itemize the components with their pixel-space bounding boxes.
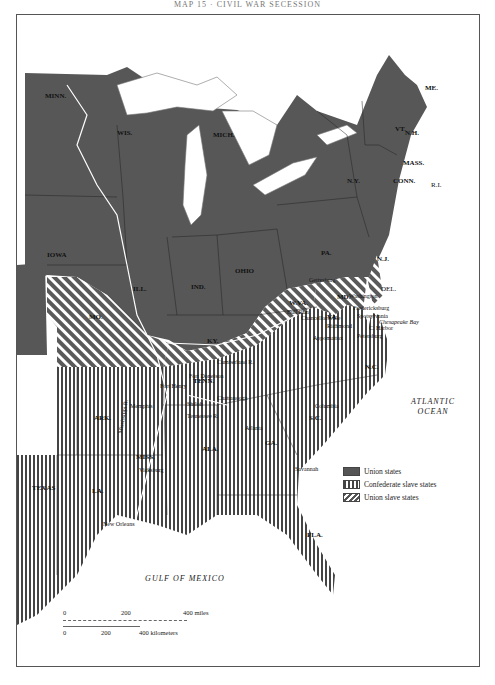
state-label-ark: ARK.: [94, 414, 111, 422]
place-appomattox: Appomattox: [313, 335, 343, 342]
place-gettysburg: Gettysburg: [309, 277, 336, 284]
scale-miles-200: 200: [121, 609, 131, 616]
union-slave-swatch-icon: [343, 493, 360, 502]
place-petersburg: Petersburg: [357, 333, 383, 340]
place-harbor: C. Harbor: [369, 325, 393, 332]
legend-label: Union states: [364, 467, 401, 476]
state-label-ill: ILL.: [133, 285, 147, 293]
ocean-label-atlantic: ATLANTIC OCEAN: [403, 397, 463, 417]
place-savannah: Savannah: [295, 466, 318, 473]
place-chattanooga: Chattanooga: [217, 395, 247, 402]
state-label-iowa: IOWA: [47, 251, 66, 259]
place-washington: Washington: [349, 293, 378, 300]
legend-label: Confederate slave states: [364, 480, 436, 489]
confederate-swatch-icon: [343, 480, 360, 489]
state-label-mo: MO.: [89, 313, 103, 321]
map-frame: MINN. WIS. MICH. IOWA ILL. IND. OHIO PA.…: [16, 14, 480, 667]
state-label-conn: CONN.: [393, 177, 415, 185]
place-new-orleans: New Orleans: [103, 521, 135, 528]
place-tennessee-r: Tennessee R.: [187, 413, 219, 420]
state-label-wis: WIS.: [117, 129, 132, 137]
place-shiloh: Shiloh: [187, 401, 203, 408]
ocean-label-line1: ATLANTIC: [403, 397, 463, 407]
scale-km-200: 200: [101, 629, 111, 636]
place-richmond: Richmond: [327, 323, 352, 330]
place-columbia: Columbia: [315, 403, 339, 410]
place-atlanta: Atlanta: [245, 425, 263, 432]
place-memphis: Memphis: [130, 403, 153, 410]
scale-km-0: 0: [63, 629, 66, 636]
state-label-ga: GA.: [265, 439, 277, 447]
ocean-label-line2: OCEAN: [403, 407, 463, 417]
state-label-nj: N.J.: [377, 255, 389, 263]
place-bull-run: Bull Run: [287, 309, 309, 316]
place-fredericksburg: Fredericksburg: [353, 305, 389, 312]
scale-miles-0: 0: [63, 609, 66, 616]
state-label-nc: N.C.: [365, 363, 379, 371]
ocean-label-gulf: GULF OF MEXICO: [125, 574, 245, 584]
scale-miles-line: [63, 620, 187, 621]
union-swatch-icon: [343, 467, 360, 476]
state-label-mass: MASS.: [403, 159, 424, 167]
place-fort-donelson: Fort Donelson: [189, 373, 224, 380]
state-label-ky: KY.: [207, 337, 219, 345]
scale-bar: 0 200 400 miles 0 200 400 kilometers: [63, 609, 263, 649]
union-west-block: [17, 263, 47, 355]
state-label-la: LA.: [92, 487, 103, 495]
state-label-mich: MICH.: [213, 131, 235, 139]
state-label-ala: ALA.: [202, 445, 219, 453]
place-chesapeake-bay: Chesapeake Bay: [379, 319, 419, 326]
state-label-pa: PA.: [321, 249, 332, 257]
legend-label: Union slave states: [364, 493, 419, 502]
legend-item-union: Union states: [343, 465, 436, 477]
state-label-sc: S.C.: [309, 414, 321, 422]
place-cumberland-r: Cumberland R.: [217, 359, 254, 366]
state-label-ri: R.I.: [431, 181, 442, 189]
place-chancellorsville: Chancellorsville: [301, 315, 340, 322]
scale-km-400: 400 kilometers: [139, 629, 178, 636]
scale-miles-400: 400 miles: [183, 609, 208, 616]
state-label-me: ME.: [425, 84, 438, 92]
civil-war-map: [17, 15, 480, 667]
state-label-ind: IND.: [191, 283, 206, 291]
state-label-minn: MINN.: [45, 92, 66, 100]
state-label-del: DEL.: [381, 285, 396, 293]
place-fort-henry: Fort Henry: [160, 383, 187, 390]
state-label-miss: MISS.: [136, 453, 155, 461]
legend-item-confederate: Confederate slave states: [343, 478, 436, 490]
state-label-wva: W.VA.: [289, 299, 308, 307]
state-label-texas: TEXAS: [32, 484, 55, 492]
state-label-nh: N.H.: [405, 129, 419, 137]
page-header: MAP 15 · CIVIL WAR SECESSION: [0, 0, 495, 12]
state-label-ohio: OHIO: [235, 267, 254, 275]
legend-item-union-slave: Union slave states: [343, 491, 436, 503]
state-label-ny: N.Y.: [347, 177, 360, 185]
map-legend: Union states Confederate slave states Un…: [343, 465, 436, 504]
scale-km-line: [63, 626, 140, 627]
state-label-fla: FLA.: [307, 531, 323, 539]
place-vicksburg: Vicksburg: [139, 467, 164, 474]
